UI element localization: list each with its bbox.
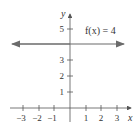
y-axis-label: y [60,8,66,19]
x-tick-label: −3 [16,113,26,123]
x-tick-label: 2 [99,113,104,123]
function-label: f(x) = 4 [85,25,116,37]
x-axis-label: x [127,112,133,123]
y-tick-label: 2 [60,71,65,81]
x-tick-label: 3 [115,113,120,123]
x-tick-label: 1 [84,113,89,123]
y-tick-label: 1 [60,87,65,97]
function-graph: −3 −2 −1 1 2 3 1 2 3 5 x y f(x) = 4 [0,0,139,131]
x-tick-label: −2 [32,113,42,123]
x-tick-label: −1 [47,113,57,123]
y-tick-label: 3 [60,55,65,65]
y-tick-label: 5 [60,24,65,34]
